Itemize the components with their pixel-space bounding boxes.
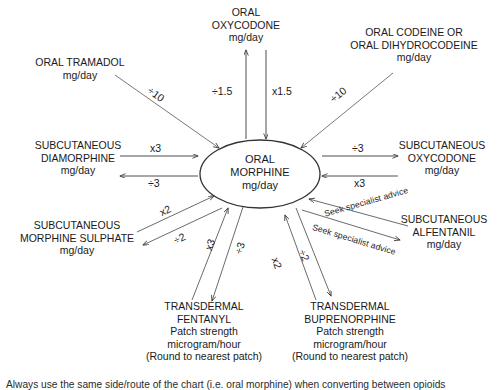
edge-label-morphine-to-diamorphine: ÷3 xyxy=(148,178,160,189)
oral-morphine-label: ORAL MORPHINE mg/day xyxy=(200,153,320,192)
node-subcutaneous-diamorphine: SUBCUTANEOUS DIAMORPHINE mg/day xyxy=(14,139,142,177)
edge-label-sc-oxycodone-to-morphine: x3 xyxy=(354,178,365,189)
node-subcutaneous-oxycodone: SUBCUTANEOUS OXYCODONE mg/day xyxy=(382,139,502,177)
edge-fentanyl-to-morphine xyxy=(192,208,228,300)
edge-label-oxycodone-to-morphine: ÷1.5 xyxy=(212,86,232,97)
edge-label-morphine-to-sc-oxycodone: ÷3 xyxy=(352,143,364,154)
node-subcutaneous-morphine-sulphate: SUBCUTANEOUS MORPHINE SULPHATE mg/day xyxy=(6,219,148,257)
node-transdermal-buprenorphine: TRANSDERMAL BUPRENORPHINE Patch strength… xyxy=(280,300,420,363)
diagram-footnote: Always use the same side/route of the ch… xyxy=(6,379,504,390)
edge-tramadol-to-morphine xyxy=(115,75,219,148)
edge-label-diamorphine-to-morphine: x3 xyxy=(150,143,161,154)
node-oral-oxycodone: ORAL OXYCODONE mg/day xyxy=(186,6,306,44)
opioid-conversion-diagram: ORAL MORPHINE mg/day ORAL TRAMADOL mg/da… xyxy=(0,0,504,390)
node-transdermal-fentanyl: TRANSDERMAL FENTANYL Patch strength micr… xyxy=(140,300,268,363)
node-subcutaneous-alfentanil: SUBCUTANEOUS ALFENTANIL mg/day xyxy=(386,213,502,251)
edge-label-morphine-to-oxycodone: x1.5 xyxy=(272,86,292,97)
edge-morphine-sulphate-to-morphine xyxy=(137,196,214,232)
edge-codeine-to-morphine xyxy=(301,73,393,148)
node-oral-codeine: ORAL CODEINE OR ORAL DIHYDROCODEINE mg/d… xyxy=(330,26,498,64)
node-oral-tramadol: ORAL TRAMADOL mg/day xyxy=(10,56,150,81)
